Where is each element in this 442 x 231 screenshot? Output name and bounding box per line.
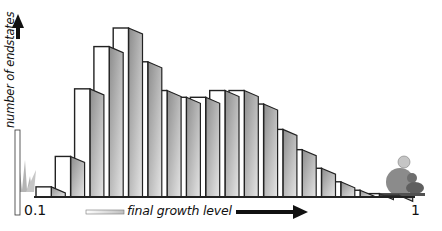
- bars-group: [36, 28, 413, 201]
- grass-decoration: [18, 160, 36, 192]
- bar-side: [90, 89, 104, 197]
- bar-side: [302, 150, 316, 197]
- bar-side: [283, 129, 297, 197]
- bar-side: [244, 91, 258, 197]
- bar-side: [129, 28, 143, 197]
- bar-side: [206, 97, 220, 197]
- bar-side: [264, 104, 278, 197]
- x-tick-start: 0.1: [24, 202, 46, 218]
- y-axis-label: number of endstates: [3, 12, 17, 128]
- bar-front: [36, 187, 51, 197]
- bar-side: [225, 91, 239, 197]
- bar-side: [322, 168, 336, 197]
- x-axis-label: final growth level: [127, 203, 232, 218]
- bar-side: [109, 47, 123, 197]
- bar-side: [167, 91, 181, 197]
- bar-chart: [0, 0, 442, 231]
- bar-side: [71, 156, 85, 197]
- x-tick-end: 1: [411, 202, 420, 218]
- bar-side: [186, 97, 200, 197]
- bar-side: [341, 182, 355, 197]
- figure-illustration: [380, 156, 425, 196]
- bar-side: [148, 62, 162, 197]
